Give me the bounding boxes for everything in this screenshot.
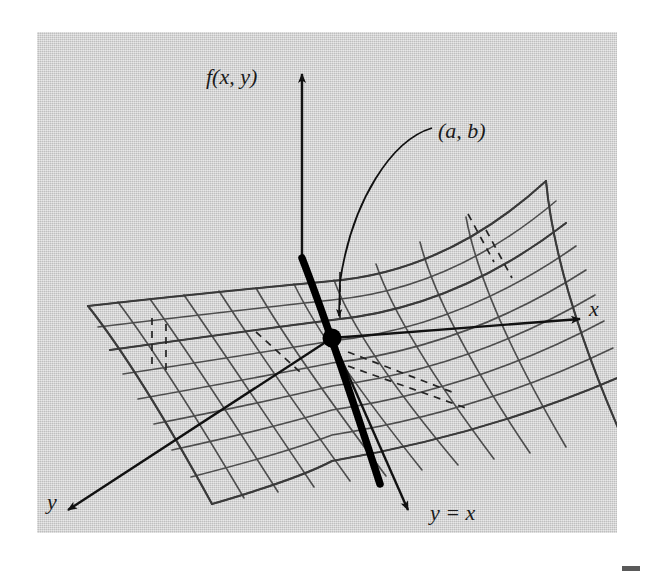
critical-point-marker <box>323 329 342 348</box>
surface-boundary <box>88 181 622 504</box>
axis-label-f: f(x, y) <box>206 64 257 90</box>
figure-root: f(x, y) (a, b) x y y = x <box>0 0 646 578</box>
scan-artifact-mark <box>622 566 640 571</box>
trace-label-y-equals-x: y = x <box>430 500 475 526</box>
saddle-surface-plot <box>0 0 646 578</box>
axis-label-y: y <box>47 489 57 515</box>
point-label-ab: (a, b) <box>438 118 486 144</box>
bold-trace-curve <box>302 258 380 484</box>
axis-x <box>332 319 580 338</box>
axis-label-x: x <box>589 296 599 322</box>
